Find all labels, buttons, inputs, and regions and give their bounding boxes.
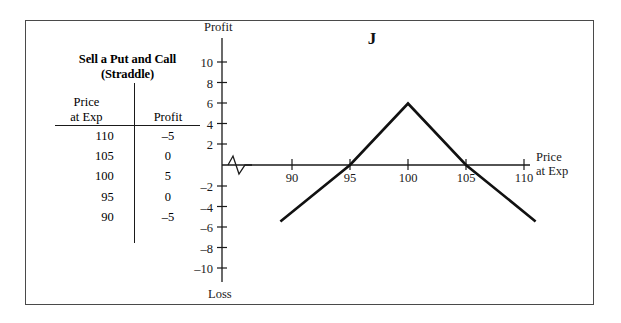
payoff-chart: J Profit Loss Price at Exp	[190, 20, 590, 305]
figure-root: Sell a Put and Call (Straddle) Price at …	[0, 0, 621, 323]
x-axis-tick-labels: 90 95 100 105 110	[286, 171, 533, 185]
x-tick-label: 105	[457, 171, 476, 185]
x-axis-label-line1: Price	[536, 150, 562, 164]
header-price-line2: at Exp	[55, 110, 128, 126]
table-header-row-top: Price	[55, 95, 200, 110]
table-caption-line2: (Straddle)	[55, 67, 200, 82]
y-tick-label: 8	[207, 77, 213, 91]
y-tick-label: –6	[200, 221, 214, 235]
table-row: 105 0	[55, 146, 200, 166]
table-row: 110 –5	[55, 126, 200, 147]
cell-price: 90	[55, 207, 128, 227]
table-row: 90 –5	[55, 207, 200, 227]
y-axis-top-label: Profit	[204, 20, 233, 34]
y-tick-label: 10	[201, 56, 214, 70]
y-tick-label: –4	[200, 201, 214, 215]
cell-price: 105	[55, 146, 128, 166]
cell-price: 110	[55, 126, 128, 147]
table-caption: Sell a Put and Call (Straddle)	[55, 52, 200, 82]
y-tick-label: 2	[207, 138, 213, 152]
x-tick-label: 100	[399, 171, 418, 185]
payoff-table-block: Sell a Put and Call (Straddle) Price at …	[55, 52, 200, 227]
y-axis-tick-labels: 10 8 6 4 2 –2 –4 –6 –8 –10	[193, 56, 214, 276]
payoff-table-grid: Price at Exp Profit 110 –5 105	[55, 95, 200, 227]
payoff-table-body: 110 –5 105 0 100 5 95 0	[55, 126, 200, 227]
table-caption-line1: Sell a Put and Call	[79, 52, 176, 66]
table-row: 95 0	[55, 187, 200, 207]
y-tick-label: 4	[207, 118, 214, 132]
y-tick-label: –10	[193, 262, 213, 276]
x-tick-label: 95	[344, 171, 357, 185]
y-tick-label: –2	[200, 180, 214, 194]
table-column-divider	[134, 83, 135, 243]
table-row: 100 5	[55, 166, 200, 186]
x-tick-label: 110	[515, 171, 533, 185]
cell-price: 100	[55, 166, 128, 186]
panel-letter: J	[368, 29, 377, 48]
x-axis-label-line2: at Exp	[536, 164, 568, 178]
y-tick-label: –8	[200, 242, 214, 256]
x-tick-label: 90	[286, 171, 299, 185]
payoff-table: Price at Exp Profit 110 –5 105	[55, 95, 200, 227]
y-axis-bottom-label: Loss	[208, 287, 232, 301]
table-header-row-bottom: at Exp Profit	[55, 110, 200, 126]
y-tick-label: 6	[207, 97, 213, 111]
cell-price: 95	[55, 187, 128, 207]
header-price-line1: Price	[55, 95, 128, 110]
